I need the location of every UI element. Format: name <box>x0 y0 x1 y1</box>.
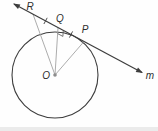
segment-op <box>55 42 84 76</box>
label-center-o: O <box>42 70 50 81</box>
arrow-up-left-icon <box>13 4 20 10</box>
segment-oq <box>55 28 58 75</box>
right-angle-mark <box>58 30 64 36</box>
arrow-down-right-icon <box>136 68 143 74</box>
geometry-figure: R Q P O m <box>0 0 158 131</box>
bottom-edge-shade <box>0 127 158 131</box>
label-line-m: m <box>146 70 154 81</box>
label-point-p: P <box>82 24 89 35</box>
label-point-r: R <box>26 1 33 12</box>
center-dot <box>53 73 57 77</box>
diagram-canvas: R Q P O m <box>0 0 158 131</box>
label-point-q: Q <box>56 13 64 24</box>
